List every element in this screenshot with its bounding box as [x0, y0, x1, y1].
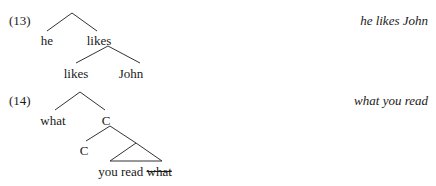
node-he: he [41, 34, 53, 47]
branch-13-root-left [47, 13, 72, 31]
branch-14-c-right [110, 126, 136, 143]
node-likes-mid: likes [87, 34, 112, 47]
yield-plain-text: you read [98, 164, 143, 179]
triangle-14-yield [110, 143, 162, 161]
branch-13-likes-left [76, 46, 108, 63]
branch-14-root-left [55, 92, 80, 110]
node-c-leaf: C [80, 144, 89, 157]
node-john: John [119, 67, 144, 80]
branch-13-likes-right [108, 46, 140, 63]
example-number-14: (14) [9, 94, 31, 107]
branch-14-c-left [86, 126, 110, 141]
node-likes-leaf: likes [64, 67, 89, 80]
example-gloss-14: what you read [354, 94, 428, 107]
example-gloss-13: he likes John [360, 14, 428, 27]
node-c-mid: C [102, 114, 111, 127]
node-yield: you read what [98, 165, 172, 178]
node-what: what [40, 114, 65, 127]
example-number-13: (13) [9, 14, 31, 27]
branch-13-root-right [72, 13, 97, 31]
branch-14-root-right [80, 92, 105, 110]
yield-struck-copy: what [147, 164, 172, 179]
